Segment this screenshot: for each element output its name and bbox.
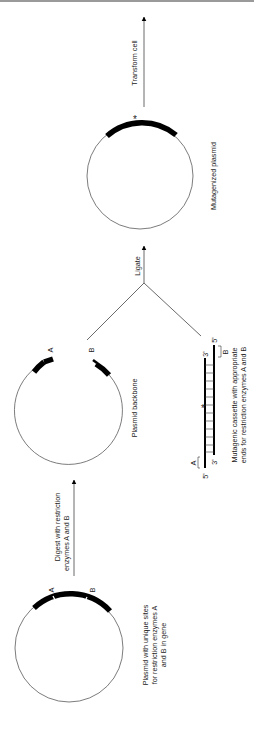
mutagenized-gene-segment	[107, 123, 176, 136]
cassette-label-a: A	[189, 460, 198, 465]
original-plasmid: A B Plasmid with unique sites for restri…	[15, 587, 168, 702]
svg-text:Mutagenic cassette with approp: Mutagenic cassette with appropriate	[230, 347, 239, 462]
cloning-workflow-diagram: A B Plasmid with unique sites for restri…	[0, 0, 254, 735]
backbone-label-a: A	[46, 347, 55, 352]
svg-text:Plasmid with unique sites: Plasmid with unique sites	[141, 604, 150, 685]
original-plasmid-caption: Plasmid with unique sites for restrictio…	[141, 604, 168, 685]
ligate-branch-backbone	[87, 283, 144, 340]
mutagenized-plasmid: * Mutagenized plasmid	[87, 114, 218, 229]
svg-text:and B in gene: and B in gene	[159, 623, 168, 667]
ligate-branch-cassette	[144, 283, 201, 336]
label-3prime-right: 3'	[201, 351, 210, 357]
cassette-caption: Mutagenic cassette with appropriate ends…	[230, 346, 248, 463]
cassette-base-pairs	[205, 365, 214, 452]
label-5prime-right: 5'	[210, 337, 219, 343]
label-5prime-left: 5'	[201, 473, 210, 479]
backbone-end-b	[96, 364, 109, 375]
site-label-a: A	[47, 587, 56, 592]
digest-label: Digest with restriction enzymes A and B	[53, 493, 71, 571]
mutagenized-circle	[87, 123, 193, 229]
backbone-end-a	[34, 362, 44, 372]
svg-text:Digest with restriction: Digest with restriction	[53, 493, 62, 561]
svg-text:ends for restriction enzymes A: ends for restriction enzymes A and B	[239, 346, 248, 463]
mutagenized-caption: Mutagenized plasmid	[209, 142, 218, 210]
digest-step: Digest with restriction enzymes A and B	[53, 480, 74, 576]
backbone-label-b: B	[87, 347, 96, 352]
transform-label: Transform cell	[130, 40, 139, 86]
mutagenic-cassette: * A B 5' 3' 3' 5' Mutagenic cassette wit…	[189, 337, 248, 479]
ligate-step: Ligate	[87, 246, 201, 340]
svg-text:for restriction enzymes A: for restriction enzymes A	[150, 605, 159, 684]
mutagenized-mutation-marker: *	[133, 114, 137, 125]
cassette-mutation-marker: *	[201, 403, 205, 414]
cassette-bracket-a	[198, 457, 200, 468]
cassette-label-b: B	[221, 349, 230, 354]
ligate-label: Ligate	[133, 256, 142, 276]
backbone-caption: Plasmid backbone	[130, 379, 139, 438]
transform-step: Transform cell	[130, 17, 144, 107]
gene-segment	[34, 594, 110, 611]
site-label-b: B	[88, 587, 97, 592]
svg-text:enzymes A and B: enzymes A and B	[62, 515, 71, 571]
label-3prime-left: 3'	[210, 459, 219, 465]
plasmid-backbone: A B Plasmid backbone	[14, 347, 139, 464]
